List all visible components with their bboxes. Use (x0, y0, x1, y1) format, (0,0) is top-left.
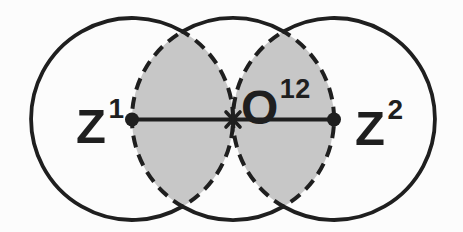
right-center-dot (327, 113, 341, 127)
label-o12-sup: 12 (280, 74, 311, 104)
label-z1-base: Z (76, 99, 106, 153)
label-z2-sup: 2 (387, 94, 403, 125)
label-z1-sup: 1 (108, 93, 124, 124)
label-z2-base: Z (355, 101, 385, 155)
label-o12-base: O (241, 81, 279, 134)
left-center-dot (125, 113, 139, 127)
diagram-canvas: Z1 O12 Z2 (0, 0, 463, 232)
venn-diagram-svg: Z1 O12 Z2 (0, 0, 463, 232)
